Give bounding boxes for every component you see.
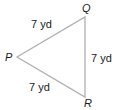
side-label-pq: 7 yd <box>31 18 52 30</box>
vertex-label-q: Q <box>82 2 91 14</box>
side-label-pr: 7 yd <box>29 81 50 93</box>
side-label-qr: 7 yd <box>91 52 112 64</box>
vertex-label-p: P <box>5 51 13 63</box>
triangle-diagram: P Q R 7 yd 7 yd 7 yd <box>0 0 115 110</box>
vertex-label-r: R <box>84 97 92 109</box>
